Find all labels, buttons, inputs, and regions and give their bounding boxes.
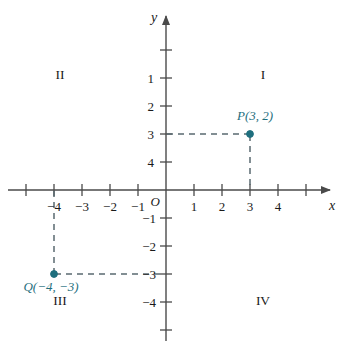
point-p-guides [167, 134, 250, 189]
point-p-label: P(3, 2) [236, 108, 273, 123]
x-axis-tick-labels: −4 −3 −2 −1 1 2 3 4 [47, 199, 282, 214]
origin-label: O [151, 194, 161, 209]
y-tick-label-2: 3 [148, 127, 155, 142]
y-axis-label: y [149, 10, 158, 25]
point-q-label: Q(−4, −3) [23, 279, 78, 294]
x-tick-label--4: −4 [47, 199, 61, 214]
quadrant-label-ii: II [56, 67, 65, 82]
quadrant-label-i: I [261, 67, 266, 82]
quadrant-label-iv: IV [256, 293, 270, 308]
x-tick-label-2: 2 [219, 199, 226, 214]
x-tick-label--2: −2 [103, 199, 117, 214]
point-p-marker[interactable] [247, 131, 254, 138]
y-tick-label--1: −1 [142, 211, 156, 226]
y-tick-label-1: 4 [148, 155, 155, 170]
y-tick-label--2: −2 [142, 239, 156, 254]
y-tick-label-4: 1 [148, 71, 155, 86]
coordinate-plane-figure: −4 −3 −2 −1 1 2 3 4 1 2 3 4 −1 −2 −3 −4 … [0, 0, 347, 349]
x-tick-label-3: 3 [247, 199, 254, 214]
x-tick-label-4: 4 [275, 199, 282, 214]
y-tick-label-3: 2 [148, 99, 155, 114]
x-axis-label: x [328, 198, 336, 213]
quadrant-labels: I II III IV [53, 67, 270, 308]
point-q-marker[interactable] [51, 271, 58, 278]
coordinate-plane-svg: −4 −3 −2 −1 1 2 3 4 1 2 3 4 −1 −2 −3 −4 … [0, 0, 347, 349]
y-tick-label--4: −4 [142, 295, 156, 310]
x-tick-label--3: −3 [75, 199, 89, 214]
quadrant-label-iii: III [53, 293, 67, 308]
y-tick-label--3: −3 [142, 267, 156, 282]
x-tick-label-1: 1 [191, 199, 198, 214]
